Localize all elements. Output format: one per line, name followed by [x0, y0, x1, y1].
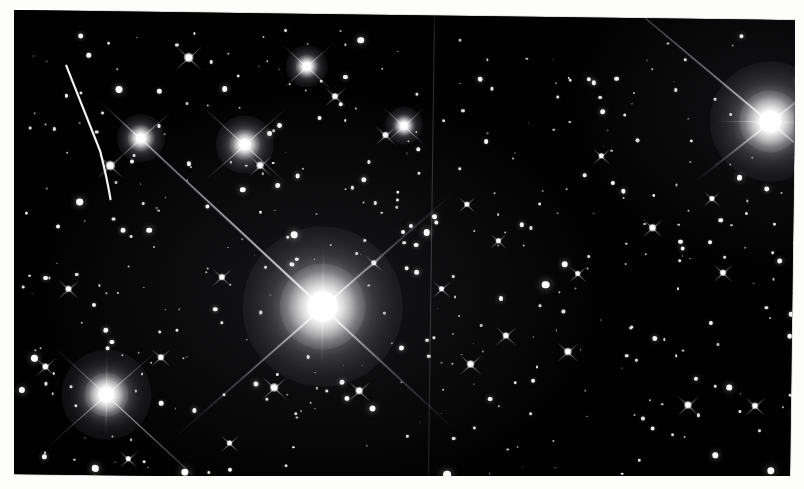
- field-star: [631, 103, 633, 105]
- field-star: [552, 440, 554, 442]
- field-star: [519, 222, 524, 227]
- field-star: [130, 235, 133, 238]
- field-star: [452, 437, 455, 440]
- field-star: [777, 258, 782, 263]
- medium-star-core: [463, 201, 469, 207]
- field-star: [769, 317, 771, 319]
- field-star: [782, 406, 784, 408]
- medium-star-spike: [175, 45, 189, 58]
- field-star: [575, 288, 577, 290]
- field-star: [415, 131, 417, 133]
- field-star: [156, 207, 158, 209]
- diffraction-spike: [171, 306, 323, 440]
- bright-star-bloom: [709, 60, 796, 182]
- field-star: [34, 349, 36, 351]
- field-star: [406, 434, 409, 437]
- field-star: [494, 192, 496, 194]
- field-star: [542, 190, 544, 192]
- medium-star-spike: [359, 381, 371, 392]
- field-star: [678, 240, 682, 244]
- field-star: [264, 265, 267, 268]
- field-star: [120, 227, 125, 232]
- field-star: [542, 281, 550, 289]
- medium-star: [373, 262, 374, 263]
- field-star: [82, 202, 84, 204]
- field-star: [674, 88, 677, 91]
- bright-star-bloom: [215, 115, 274, 174]
- medium-star-spike: [722, 272, 732, 281]
- medium-star: [505, 335, 506, 336]
- field-star: [568, 78, 571, 81]
- field-star: [419, 421, 420, 422]
- field-star: [621, 189, 626, 194]
- diffraction-spike: [306, 44, 332, 67]
- field-star: [344, 43, 346, 45]
- field-star: [31, 355, 38, 362]
- medium-star-spike: [261, 388, 275, 400]
- field-star: [53, 127, 56, 130]
- field-star: [56, 263, 58, 265]
- field-star: [625, 354, 629, 358]
- diffraction-spike: [381, 105, 404, 126]
- field-star: [92, 465, 99, 472]
- field-star: [339, 102, 343, 106]
- medium-star-core: [719, 269, 726, 276]
- diffraction-spike: [244, 106, 289, 145]
- diffraction-spike: [106, 348, 159, 395]
- medium-star-spike: [373, 255, 382, 263]
- diffraction-spike: [654, 25, 771, 123]
- field-star: [529, 226, 532, 229]
- field-star: [600, 109, 605, 114]
- medium-star-spike: [373, 263, 382, 272]
- field-star: [584, 390, 586, 392]
- medium-star-spike: [260, 165, 272, 176]
- field-star: [165, 197, 166, 198]
- field-star: [230, 161, 232, 163]
- field-star: [56, 225, 60, 229]
- field-star: [343, 365, 344, 366]
- field-star: [116, 69, 118, 71]
- field-star: [765, 306, 769, 310]
- medium-star-spike: [755, 397, 766, 407]
- medium-star: [652, 227, 653, 228]
- field-star: [591, 80, 596, 85]
- field-star: [745, 247, 747, 249]
- field-star: [621, 367, 623, 369]
- field-star: [229, 283, 231, 285]
- field-star: [44, 452, 46, 454]
- field-star: [414, 243, 419, 248]
- field-star: [687, 118, 689, 120]
- faint-trail-line: [106, 394, 195, 476]
- field-star: [562, 310, 565, 313]
- field-star: [87, 53, 91, 57]
- medium-star-core: [466, 360, 475, 369]
- medium-star-spike: [652, 228, 663, 239]
- medium-star-spike: [745, 397, 756, 407]
- plate-seam-line: [428, 10, 436, 484]
- medium-star-spike: [96, 153, 110, 166]
- field-star: [514, 152, 515, 153]
- medium-star-spike: [641, 227, 652, 237]
- medium-star-spike: [335, 96, 346, 106]
- field-star: [459, 39, 461, 41]
- medium-star-spike: [601, 156, 610, 165]
- field-star: [121, 354, 123, 356]
- medium-star-spike: [490, 240, 499, 248]
- field-star: [484, 139, 488, 143]
- field-star: [433, 336, 436, 339]
- medium-star-spike: [221, 269, 231, 278]
- field-star: [458, 315, 460, 317]
- field-star: [680, 246, 685, 251]
- field-star: [329, 244, 331, 246]
- medium-star-core: [502, 332, 510, 340]
- field-star: [165, 309, 166, 310]
- medium-star-spike: [45, 367, 56, 377]
- field-star: [307, 43, 309, 45]
- field-star: [567, 77, 570, 80]
- night-sky-star-field: [8, 10, 796, 484]
- medium-star: [498, 240, 499, 241]
- medium-star-spike: [58, 280, 69, 290]
- field-star: [205, 271, 208, 274]
- field-star: [682, 350, 684, 352]
- field-star: [441, 413, 442, 414]
